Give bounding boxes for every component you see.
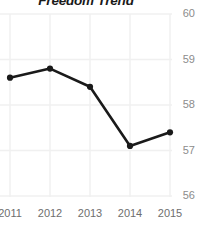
x-axis-tick-label: 2011 [0, 208, 22, 219]
y-axis-tick-label: 59 [183, 54, 195, 65]
x-axis-tick-label: 2013 [78, 208, 102, 219]
x-axis-tick-label: 2015 [158, 208, 182, 219]
x-axis-tick-label: 2014 [118, 208, 142, 219]
line-chart-plot [0, 0, 197, 226]
data-point-marker [87, 84, 93, 90]
y-axis-tick-label: 56 [183, 190, 195, 201]
grid-lines [0, 14, 172, 197]
data-point-marker [7, 75, 13, 81]
y-axis-tick-label: 58 [183, 99, 195, 110]
y-axis-tick-label: 57 [183, 145, 195, 156]
y-axis-tick-label: 60 [183, 8, 195, 19]
data-point-marker [47, 66, 53, 72]
data-point-marker [167, 129, 173, 135]
chart-figure: Freedom Trend 5657585960 201120122013201… [0, 0, 197, 226]
x-axis-tick-label: 2012 [38, 208, 62, 219]
data-point-marker [127, 143, 133, 149]
